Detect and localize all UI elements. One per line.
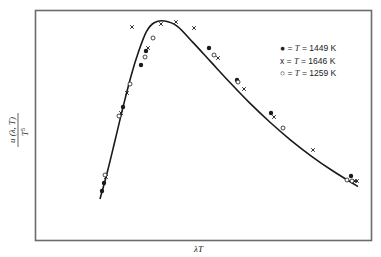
x-marker bbox=[146, 46, 150, 50]
legend: ● = T = 1449 K x = T = 1646 K ○ = T = 12… bbox=[280, 42, 336, 80]
filled-circle-marker bbox=[207, 46, 211, 50]
open-circle-marker bbox=[151, 36, 155, 40]
x-marker bbox=[355, 179, 359, 183]
open-circle-marker bbox=[345, 178, 349, 182]
x-marker bbox=[272, 115, 276, 119]
open-circle-marker bbox=[236, 80, 240, 84]
x-marker bbox=[192, 26, 196, 30]
x-axis-label: λT bbox=[194, 244, 203, 254]
plot-area bbox=[0, 0, 381, 257]
filled-circle-marker bbox=[102, 181, 106, 185]
open-circle-marker bbox=[143, 55, 147, 59]
filled-circle-marker bbox=[349, 174, 353, 178]
y-label-numerator: u (λ, T) bbox=[7, 117, 17, 143]
y-label-denominator: T5 bbox=[20, 128, 30, 136]
x-marker bbox=[159, 22, 163, 26]
filled-circle-marker bbox=[269, 111, 273, 115]
open-circle-marker bbox=[103, 173, 107, 177]
open-circle-marker bbox=[281, 126, 285, 130]
x-marker bbox=[174, 20, 178, 24]
y-axis-label: u (λ, T) T5 bbox=[4, 95, 34, 165]
filled-circle-marker bbox=[121, 105, 125, 109]
open-circle-marker bbox=[212, 53, 216, 57]
x-marker bbox=[242, 87, 246, 91]
x-marker bbox=[216, 56, 220, 60]
legend-item-1646k: x = T = 1646 K bbox=[280, 55, 336, 68]
open-circle-marker bbox=[350, 179, 354, 183]
x-marker bbox=[311, 148, 315, 152]
legend-item-1449k: ● = T = 1449 K bbox=[280, 42, 336, 55]
legend-item-1259k: ○ = T = 1259 K bbox=[280, 67, 336, 80]
x-marker bbox=[130, 25, 134, 29]
open-circle-marker bbox=[117, 114, 121, 118]
filled-circle-marker bbox=[100, 189, 104, 193]
filled-circle-marker bbox=[139, 63, 143, 67]
open-circle-marker bbox=[128, 82, 132, 86]
